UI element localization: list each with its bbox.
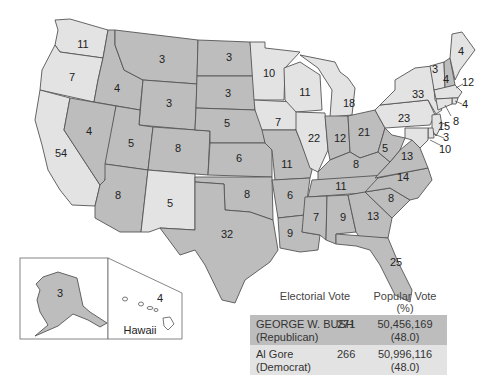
- svg-text:23: 23: [398, 112, 410, 124]
- svg-text:8: 8: [353, 158, 359, 170]
- svg-text:4: 4: [86, 125, 92, 137]
- candidate-party: (Republican): [256, 331, 354, 344]
- svg-text:11: 11: [77, 38, 88, 50]
- svg-text:21: 21: [358, 126, 370, 138]
- svg-text:4: 4: [458, 45, 464, 57]
- header-electoral-vote: Electorial Vote: [270, 290, 360, 302]
- svg-text:5: 5: [382, 142, 388, 154]
- svg-text:7: 7: [69, 71, 75, 83]
- svg-text:18: 18: [343, 97, 355, 109]
- header-popular-vote: Popular Vote (%): [360, 290, 450, 314]
- legend-row-bush: GEORGE W. BUSH (Republican) 271 50,456,1…: [250, 315, 447, 345]
- svg-text:10: 10: [263, 67, 275, 79]
- svg-text:32: 32: [221, 228, 233, 240]
- candidate-party: (Democrat): [256, 361, 311, 374]
- svg-text:6: 6: [236, 152, 242, 164]
- legend-row-gore: Al Gore (Democrat) 266 50,996,116 (48.0): [250, 345, 447, 375]
- svg-text:3: 3: [432, 63, 438, 75]
- popular-vote-percent: (48.0): [370, 331, 440, 344]
- svg-text:54: 54: [55, 147, 67, 159]
- popular-vote-percent: (48.0): [370, 361, 440, 374]
- electoral-vote-value: 271: [337, 318, 355, 331]
- svg-text:5: 5: [224, 117, 230, 129]
- svg-text:13: 13: [367, 210, 379, 222]
- svg-text:14: 14: [397, 171, 409, 183]
- svg-text:3: 3: [226, 51, 232, 63]
- svg-text:6: 6: [287, 189, 293, 201]
- svg-text:8: 8: [175, 142, 181, 154]
- svg-text:4: 4: [462, 98, 468, 110]
- svg-text:3: 3: [159, 53, 165, 65]
- candidate-name: Al Gore (Democrat): [256, 348, 311, 374]
- svg-text:9: 9: [340, 211, 346, 223]
- svg-text:11: 11: [335, 180, 346, 192]
- svg-text:3: 3: [166, 97, 172, 109]
- svg-text:11: 11: [281, 158, 292, 170]
- svg-text:3: 3: [225, 87, 231, 99]
- popular-vote-value: 50,456,169 (48.0): [370, 318, 440, 344]
- inset-alaska-hawaii: 3 4 Hawaii: [20, 258, 182, 339]
- svg-text:9: 9: [287, 227, 293, 239]
- svg-text:4: 4: [443, 73, 449, 85]
- svg-text:7: 7: [313, 211, 319, 223]
- svg-text:12: 12: [462, 76, 474, 88]
- svg-text:4: 4: [114, 82, 120, 94]
- svg-text:25: 25: [390, 256, 402, 268]
- header-popular-vote-line2: (%): [360, 302, 450, 314]
- svg-text:12: 12: [334, 132, 346, 144]
- svg-text:4: 4: [157, 292, 163, 304]
- svg-text:5: 5: [128, 137, 134, 149]
- svg-text:8: 8: [453, 115, 459, 127]
- svg-text:3: 3: [57, 287, 63, 299]
- svg-text:Hawaii: Hawaii: [123, 324, 156, 336]
- svg-text:10: 10: [439, 143, 451, 155]
- svg-text:8: 8: [388, 192, 394, 204]
- header-popular-vote-line1: Popular Vote: [360, 290, 450, 302]
- popular-vote-value: 50,996,116 (48.0): [370, 348, 440, 374]
- svg-text:8: 8: [244, 188, 250, 200]
- popular-vote-count: 50,996,116: [370, 348, 440, 361]
- state-ct[interactable]: [436, 98, 452, 110]
- svg-text:8: 8: [115, 189, 121, 201]
- svg-text:33: 33: [412, 88, 424, 100]
- svg-text:3: 3: [443, 131, 449, 143]
- candidate-name-text: Al Gore: [256, 348, 311, 361]
- svg-text:22: 22: [308, 132, 320, 144]
- electoral-vote-value: 266: [337, 348, 355, 361]
- popular-vote-count: 50,456,169: [370, 318, 440, 331]
- svg-text:11: 11: [299, 86, 310, 98]
- svg-text:7: 7: [275, 116, 281, 128]
- svg-text:5: 5: [167, 197, 173, 209]
- state-de[interactable]: [428, 128, 434, 138]
- svg-text:13: 13: [401, 150, 413, 162]
